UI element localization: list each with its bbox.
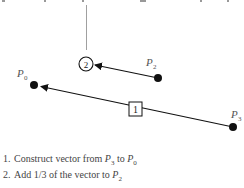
svg-text:P: P	[145, 56, 153, 68]
label-p0: P 0	[16, 67, 28, 82]
step-2: 2.Add 1/3 of the vector to P2	[3, 169, 137, 185]
point-p2-dot	[154, 74, 162, 82]
step-1-marker: 1	[129, 102, 142, 116]
label-p3: P 3	[230, 108, 242, 123]
svg-text:1: 1	[133, 104, 138, 115]
cropped-text-fragments	[2, 0, 229, 2]
steps-list: 1.Construct vector from P3 to P0 2.Add 1…	[3, 153, 137, 185]
point-p3-dot	[229, 123, 237, 131]
svg-text:0: 0	[24, 74, 28, 82]
svg-text:P: P	[230, 108, 238, 120]
svg-text:2: 2	[84, 60, 89, 70]
svg-text:2: 2	[153, 63, 157, 71]
step-1: 1.Construct vector from P3 to P0	[3, 153, 137, 169]
svg-text:P: P	[16, 67, 24, 79]
step-2-marker: 2	[79, 57, 93, 71]
label-p2: P 2	[145, 56, 157, 71]
svg-text:3: 3	[238, 115, 242, 123]
point-p0-dot	[30, 81, 38, 89]
